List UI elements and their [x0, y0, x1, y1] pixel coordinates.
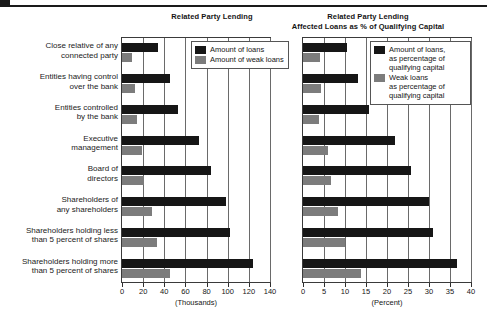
bar: [303, 53, 320, 62]
category-label-line: Close relative of any: [3, 41, 118, 51]
legend-swatch-icon: [374, 74, 385, 82]
bar: [303, 146, 328, 155]
axis-tick-label: 120: [243, 287, 256, 296]
category-label-line: Shareholders holding more: [3, 257, 118, 267]
axis-tick-label: 40: [467, 287, 475, 296]
axis-tick-label: 40: [160, 287, 168, 296]
legend-swatch-icon: [374, 46, 385, 54]
category-label-line: directors: [3, 174, 118, 184]
bar: [303, 259, 457, 268]
right-chart-title-line1: Related Party Lending: [252, 12, 484, 22]
left-chart-legend: Amount of loansAmount of weak loans: [191, 41, 289, 69]
category-label-line: by the bank: [3, 112, 118, 122]
category-axis-labels: Close relative of anyconnected partyEnti…: [0, 37, 121, 283]
chart-figure: Related Party Lending Related Party Lend…: [0, 0, 487, 320]
axis-tick-label: 15: [362, 287, 370, 296]
bar: [122, 269, 170, 278]
category-label: Executivemanagement: [3, 134, 121, 153]
axis-tick-label: 25: [404, 287, 412, 296]
category-label: Board ofdirectors: [3, 164, 121, 183]
legend-label: Weak loans as percentage of qualifying c…: [389, 73, 445, 100]
bar: [303, 115, 319, 124]
bar: [122, 146, 142, 155]
axis-tick-label: 20: [139, 287, 147, 296]
category-label-line: than 5 percent of shares: [3, 235, 118, 245]
category-label-line: any shareholders: [3, 205, 118, 215]
axis-tick-label: 30: [425, 287, 433, 296]
bar: [303, 105, 369, 114]
right-chart-title: Related Party Lending Affected Loans as …: [252, 12, 484, 32]
bar: [122, 43, 158, 52]
legend-item: Amount of weak loans: [195, 55, 284, 64]
bar: [122, 53, 132, 62]
figure-top-rule: [0, 5, 487, 7]
category-label: Shareholders holding morethan 5 percent …: [3, 257, 121, 276]
left-chart-x-axis: (Thousands) 020406080100120140: [121, 283, 271, 313]
gridline: [228, 38, 229, 282]
gridline: [471, 38, 472, 282]
category-label: Shareholders ofany shareholders: [3, 195, 121, 214]
axis-tick-label: 100: [221, 287, 234, 296]
right-chart-x-axis-unit: (Percent): [302, 298, 472, 307]
legend-swatch-icon: [195, 46, 206, 54]
bar: [122, 105, 178, 114]
category-label-line: Shareholders of: [3, 195, 118, 205]
bar: [303, 74, 358, 83]
category-label-line: Board of: [3, 164, 118, 174]
gridline: [207, 38, 208, 282]
bar: [303, 197, 429, 206]
bar: [303, 136, 395, 145]
axis-tick-label: 80: [202, 287, 210, 296]
gridline: [270, 38, 271, 282]
category-label: Close relative of anyconnected party: [3, 41, 121, 60]
gridline: [185, 38, 186, 282]
category-label-line: than 5 percent of shares: [3, 266, 118, 276]
gridline: [366, 38, 367, 282]
category-label: Entities having controlover the bank: [3, 72, 121, 91]
axis-tick-label: 20: [383, 287, 391, 296]
bar: [122, 207, 152, 216]
bar: [303, 176, 331, 185]
bar: [303, 228, 433, 237]
gridline: [249, 38, 250, 282]
category-label-line: management: [3, 143, 118, 153]
bar: [122, 74, 170, 83]
axis-tick-label: 10: [341, 287, 349, 296]
bar: [122, 238, 157, 247]
legend-item: Weak loans as percentage of qualifying c…: [374, 73, 466, 100]
legend-label: Amount of weak loans: [210, 55, 284, 64]
bar: [303, 166, 411, 175]
axis-tick-label: 5: [322, 287, 326, 296]
bar: [122, 115, 137, 124]
category-label-line: over the bank: [3, 82, 118, 92]
axis-tick-label: 60: [181, 287, 189, 296]
legend-label: Amount of loans, as percentage of qualif…: [389, 45, 445, 72]
bar: [303, 269, 361, 278]
category-label-line: Entities controlled: [3, 103, 118, 113]
bar: [122, 176, 144, 185]
bar: [122, 259, 253, 268]
left-chart-x-axis-unit: (Thousands): [121, 298, 271, 307]
bar: [122, 228, 230, 237]
bar: [303, 43, 347, 52]
legend-item: Amount of loans, as percentage of qualif…: [374, 45, 466, 72]
category-label: Entities controlledby the bank: [3, 103, 121, 122]
right-chart-legend: Amount of loans, as percentage of qualif…: [370, 41, 471, 105]
bar: [122, 197, 226, 206]
bar: [303, 84, 321, 93]
bar: [303, 238, 345, 247]
legend-swatch-icon: [195, 56, 206, 64]
bar: [303, 207, 338, 216]
bar: [122, 136, 199, 145]
category-label-line: connected party: [3, 51, 118, 61]
category-label-line: Executive: [3, 134, 118, 144]
category-label-line: Shareholders holding less: [3, 226, 118, 236]
axis-tick-label: 35: [446, 287, 454, 296]
bar: [122, 166, 211, 175]
axis-tick-label: 0: [301, 287, 305, 296]
right-chart-x-axis: (Percent) 0510152025303540: [302, 283, 472, 313]
axis-tick-label: 140: [264, 287, 277, 296]
legend-label: Amount of loans: [210, 45, 264, 54]
category-label-line: Entities having control: [3, 72, 118, 82]
axis-tick-label: 0: [120, 287, 124, 296]
